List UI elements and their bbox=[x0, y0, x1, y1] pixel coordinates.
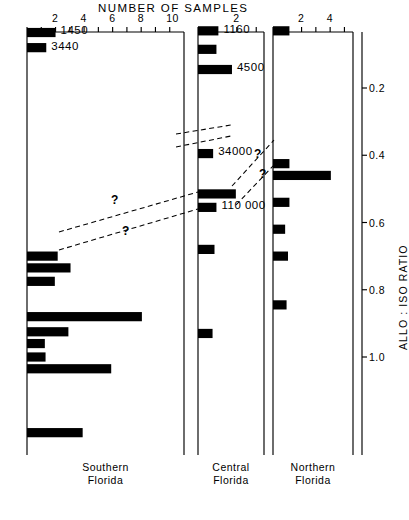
x-tick-label-southern-florida-2: 2 bbox=[52, 12, 58, 24]
bar-southern-florida-5 bbox=[27, 312, 142, 321]
bar-label-southern-florida-1: 3440 bbox=[51, 40, 79, 52]
bar-southern-florida-9 bbox=[27, 364, 111, 373]
bar-northern-florida-2 bbox=[273, 171, 331, 180]
bar-northern-florida-0 bbox=[273, 26, 289, 35]
bar-northern-florida-3 bbox=[273, 198, 289, 207]
question-mark-right-upper: ? bbox=[254, 147, 261, 161]
y-tick-label-0.6: 0.6 bbox=[369, 217, 385, 229]
bar-southern-florida-10 bbox=[27, 428, 83, 437]
bar-central-florida-5 bbox=[198, 203, 216, 212]
bar-central-florida-6 bbox=[198, 245, 215, 254]
bar-central-florida-0 bbox=[198, 26, 218, 35]
panel-central-florida bbox=[198, 26, 264, 455]
x-tick-label-southern-florida-4: 4 bbox=[81, 12, 87, 24]
bar-central-florida-3 bbox=[198, 149, 213, 158]
panel-caption-southern-florida: SouthernFlorida bbox=[61, 461, 151, 486]
bar-southern-florida-1 bbox=[27, 43, 46, 52]
bar-label-southern-florida-0: 1450 bbox=[61, 24, 89, 36]
bar-central-florida-7 bbox=[198, 329, 213, 338]
panel-northern-florida bbox=[273, 26, 353, 455]
y-tick-label-1.0: 1.0 bbox=[369, 351, 385, 363]
panel-caption-line1: Northern bbox=[268, 461, 358, 474]
x-tick-label-southern-florida-8: 8 bbox=[138, 12, 144, 24]
bar-label-central-florida-3: 34000 bbox=[218, 145, 252, 157]
bar-northern-florida-4 bbox=[273, 225, 285, 234]
x-tick-label-southern-florida-6: 6 bbox=[109, 12, 115, 24]
panel-caption-central-florida: CentralFlorida bbox=[186, 461, 276, 486]
panel-caption-line2: Florida bbox=[268, 474, 358, 487]
bar-label-central-florida-5: 110 000 bbox=[221, 199, 265, 211]
correlation-lines bbox=[59, 125, 274, 250]
x-tick-label-southern-florida-10: 10 bbox=[166, 12, 178, 24]
y-tick-label-0.4: 0.4 bbox=[369, 149, 385, 161]
question-mark-left-lower: ? bbox=[122, 224, 129, 238]
panel-caption-line1: Southern bbox=[61, 461, 151, 474]
panel-caption-line2: Florida bbox=[186, 474, 276, 487]
bar-southern-florida-3 bbox=[27, 263, 71, 272]
panel-caption-line1: Central bbox=[186, 461, 276, 474]
bar-southern-florida-4 bbox=[27, 277, 55, 286]
x-tick-label-northern-florida-2: 2 bbox=[298, 12, 304, 24]
bar-central-florida-1 bbox=[198, 45, 216, 54]
bar-southern-florida-2 bbox=[27, 252, 58, 261]
bar-central-florida-4 bbox=[198, 189, 236, 198]
bar-southern-florida-0 bbox=[27, 28, 56, 37]
bar-label-central-florida-0: 1160 bbox=[223, 23, 250, 35]
bar-southern-florida-8 bbox=[27, 352, 46, 361]
question-mark-right-lower: ? bbox=[259, 167, 266, 181]
question-mark-left-upper: ? bbox=[111, 193, 118, 207]
bar-southern-florida-6 bbox=[27, 327, 68, 336]
y-axis-title: ALLO : ISO RATIO bbox=[397, 244, 409, 350]
bar-label-central-florida-2: 4500 bbox=[237, 61, 265, 73]
panel-southern-florida bbox=[27, 27, 184, 455]
bar-northern-florida-1 bbox=[273, 159, 289, 168]
bar-central-florida-2 bbox=[198, 65, 232, 74]
y-axis bbox=[362, 32, 367, 455]
bar-northern-florida-6 bbox=[273, 300, 287, 309]
y-tick-label-0.8: 0.8 bbox=[369, 284, 385, 296]
y-tick-label-0.2: 0.2 bbox=[369, 82, 385, 94]
bar-southern-florida-7 bbox=[27, 339, 45, 348]
x-tick-label-northern-florida-4: 4 bbox=[327, 12, 333, 24]
bar-northern-florida-5 bbox=[273, 252, 288, 261]
panel-caption-northern-florida: NorthernFlorida bbox=[268, 461, 358, 486]
panel-caption-line2: Florida bbox=[61, 474, 151, 487]
